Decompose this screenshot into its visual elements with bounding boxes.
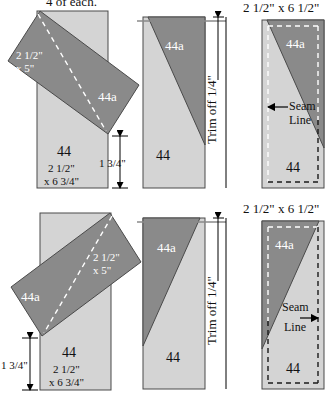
sewn-dark-label-44a: 44a bbox=[165, 38, 184, 53]
offset-dimension-label: 1 3/4" bbox=[1, 359, 28, 371]
strip-label-44a: 44a bbox=[21, 289, 40, 304]
trim-note-label: Trim off 1/4" bbox=[204, 276, 219, 345]
finished-size-caption: 2 1/2" x 6 1/2" bbox=[243, 0, 319, 15]
strip-size-label-line2: x 5" bbox=[93, 264, 111, 276]
seam-label-line1: Seam bbox=[289, 99, 316, 113]
base-size-label-line1: 2 1/2" bbox=[53, 363, 80, 375]
seam-label-line2: Line bbox=[284, 320, 306, 334]
quilt-block-instruction-diagram: 4 of each. 2 1/2" x 5" 44a 44 2 1/2" x 6… bbox=[0, 0, 334, 408]
base-size-label-line2: x 6 3/4" bbox=[44, 175, 79, 187]
finished-light-label-44: 44 bbox=[286, 160, 300, 175]
sewn-dark-label-44a: 44a bbox=[157, 240, 176, 255]
finished-dark-label-44a: 44a bbox=[275, 237, 294, 252]
sewn-light-label-44: 44 bbox=[166, 350, 180, 365]
base-size-label-line2: x 6 3/4" bbox=[49, 376, 84, 388]
strip-size-label-line1: 2 1/2" bbox=[16, 49, 43, 61]
strip-label-44a: 44a bbox=[98, 89, 117, 104]
finished-size-caption: 2 1/2" x 6 1/2" bbox=[243, 201, 319, 216]
finished-light-label-44: 44 bbox=[286, 361, 300, 376]
base-size-label-line1: 2 1/2" bbox=[48, 162, 75, 174]
quantity-note: 4 of each. bbox=[46, 0, 97, 9]
sewn-light-label-44: 44 bbox=[156, 148, 170, 163]
strip-size-label-line1: 2 1/2" bbox=[93, 251, 120, 263]
strip-size-label-line2: x 5" bbox=[16, 62, 34, 74]
trim-note-label: Trim off 1/4" bbox=[204, 75, 219, 144]
seam-label-line2: Line bbox=[289, 113, 311, 127]
offset-dimension-label: 1 3/4" bbox=[99, 157, 126, 169]
diagram-sheet: 4 of each. 2 1/2" x 5" 44a 44 2 1/2" x 6… bbox=[0, 0, 334, 408]
base-label-44: 44 bbox=[57, 144, 71, 159]
base-label-44: 44 bbox=[62, 345, 76, 360]
seam-label-line1: Seam bbox=[282, 300, 309, 314]
finished-dark-label-44a: 44a bbox=[286, 36, 305, 51]
